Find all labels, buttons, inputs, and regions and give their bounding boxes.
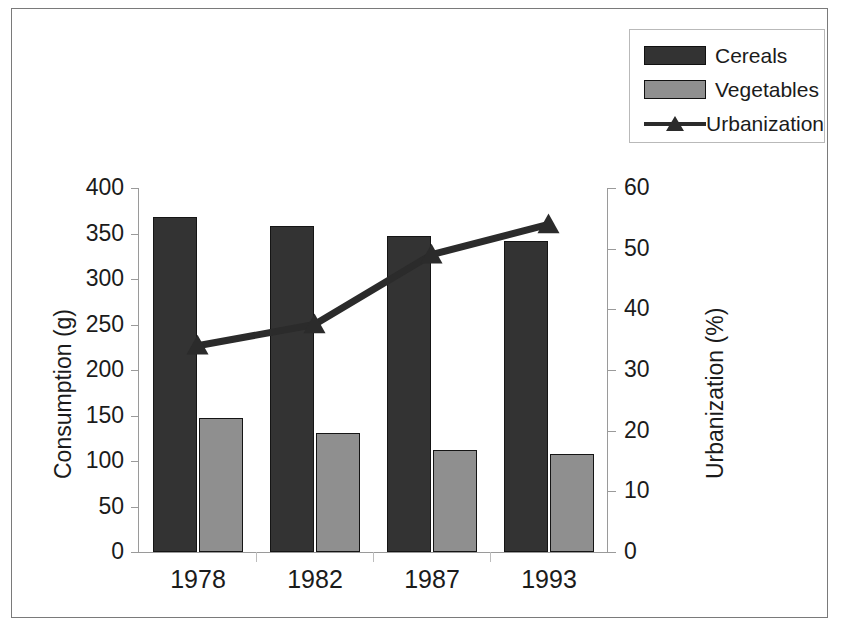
right-axis-tick-label: 10 <box>624 479 650 502</box>
right-axis-tick <box>607 552 616 553</box>
legend-item-label: Urbanization <box>706 113 824 134</box>
dark-bar-swatch-icon <box>644 46 706 65</box>
chart-frame: Cereals Vegetables Urbanization Consumpt… <box>11 8 828 618</box>
right-axis-tick-label: 0 <box>624 540 637 563</box>
right-axis-tick-label: 50 <box>624 237 650 260</box>
legend-item-label: Vegetables <box>715 79 819 100</box>
x-axis-tick-label: 1978 <box>140 565 256 594</box>
legend-item-label: Cereals <box>715 45 787 66</box>
left-axis-tick-label: 200 <box>64 358 124 381</box>
left-axis-tick-label: 300 <box>64 267 124 290</box>
right-axis-tick-label: 20 <box>624 419 650 442</box>
right-axis-tick-label: 60 <box>624 176 650 199</box>
left-axis-tick <box>131 552 140 553</box>
left-axis-tick-label: 50 <box>64 495 124 518</box>
left-axis-tick-label: 400 <box>64 176 124 199</box>
left-axis-tick-label: 0 <box>64 540 124 563</box>
right-axis-tick <box>607 491 616 492</box>
right-axis-tick <box>607 431 616 432</box>
right-axis-tick-label: 40 <box>624 297 650 320</box>
chart-legend: Cereals Vegetables Urbanization <box>629 29 825 143</box>
urbanization-line-path <box>198 224 549 345</box>
right-axis-tick <box>607 188 616 189</box>
left-axis-tick-label: 250 <box>64 313 124 336</box>
x-axis-tick-label: 1987 <box>374 565 490 594</box>
left-axis-tick-label: 100 <box>64 449 124 472</box>
left-axis-tick-label: 150 <box>64 404 124 427</box>
right-axis-title: Urbanization (%) <box>702 308 729 479</box>
urbanization-line-series <box>139 188 607 552</box>
legend-item-cereals: Cereals <box>644 38 824 72</box>
right-axis-tick-label: 30 <box>624 358 650 381</box>
gray-bar-swatch-icon <box>644 80 706 99</box>
right-axis-tick <box>607 309 616 310</box>
left-axis-tick-label: 350 <box>64 222 124 245</box>
legend-item-vegetables: Vegetables <box>644 72 824 106</box>
legend-item-urbanization: Urbanization <box>644 106 824 140</box>
right-axis-tick <box>607 370 616 371</box>
x-axis-tick-label: 1982 <box>257 565 373 594</box>
line-triangle-marker-icon <box>644 114 697 133</box>
x-axis-tick-label: 1993 <box>491 565 607 594</box>
right-axis-tick <box>607 249 616 250</box>
